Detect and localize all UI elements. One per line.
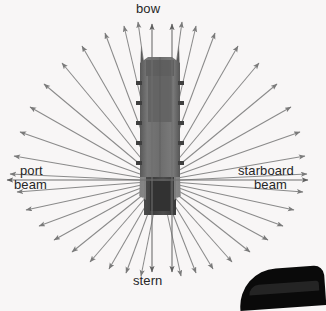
hull-stern-deck	[150, 181, 170, 211]
label-port-line1: port	[14, 163, 43, 178]
label-starboard-line1: starboard	[238, 163, 294, 178]
label-starboard-beam: starboard beam	[238, 164, 294, 192]
label-port-beam: port beam	[14, 164, 47, 192]
label-bow: bow	[136, 2, 160, 16]
label-port-line2: beam	[14, 178, 47, 192]
label-stern: stern	[133, 274, 162, 288]
ship-hull	[136, 46, 184, 215]
label-starboard-line2: beam	[238, 178, 294, 192]
